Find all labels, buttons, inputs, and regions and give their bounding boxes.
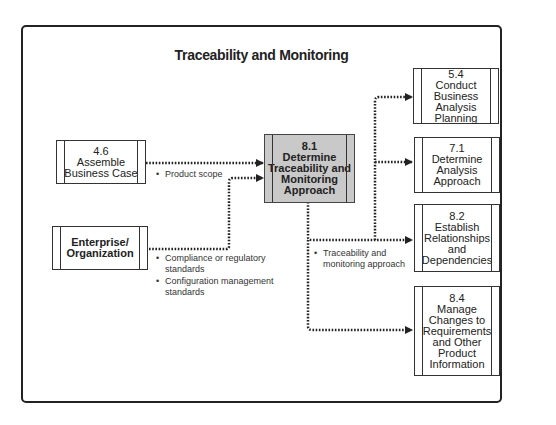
arrow-8-1-to-5-4 bbox=[375, 97, 412, 240]
note-product-scope: •Product scope bbox=[156, 169, 223, 180]
note-compliance: •Compliance or regulatory standards bbox=[156, 253, 266, 275]
output-box-5-4: 5.4 Conduct Business Analysis Planning bbox=[413, 68, 499, 124]
input-box-4-6: 4.6 Assemble Business Case bbox=[56, 140, 146, 184]
note-config: •Configuration management standards bbox=[156, 276, 274, 298]
output-box-8-2: 8.2 Establish Relationships and Dependen… bbox=[414, 204, 500, 272]
output-box-7-1: 7.1 Determine Analysis Approach bbox=[414, 137, 500, 193]
task-box-8-1: 8.1 Determine Traceability and Monitorin… bbox=[264, 134, 355, 203]
arrow-enterprise-to-8-1 bbox=[149, 178, 263, 249]
output-box-8-4: 8.4 Manage Changes to Requirements and O… bbox=[414, 286, 500, 376]
arrow-8-1-to-8-2 bbox=[308, 202, 412, 240]
input-box-enterprise: Enterprise/ Organization bbox=[52, 226, 148, 270]
note-traceability-approach: •Traceability and monitoring approach bbox=[314, 248, 405, 270]
